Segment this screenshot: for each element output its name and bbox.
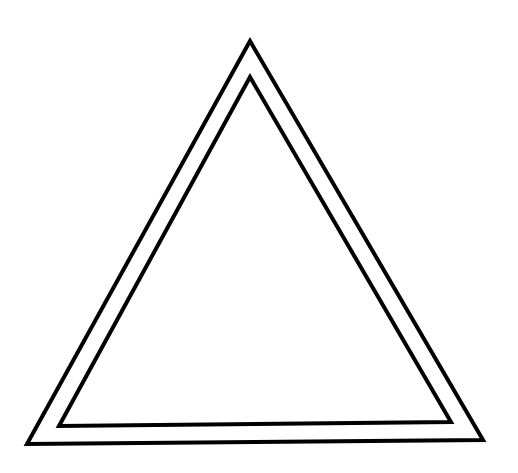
diagram-canvas [0, 0, 518, 473]
outer-triangle [27, 41, 483, 444]
inner-triangle [59, 77, 451, 426]
nested-triangles-diagram [0, 0, 518, 473]
